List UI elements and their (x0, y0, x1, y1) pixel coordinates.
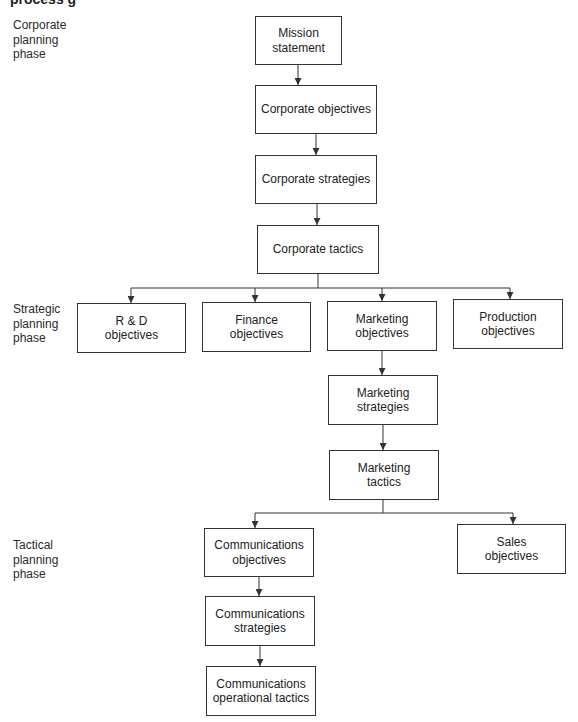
node-label: Communications strategies (212, 607, 308, 636)
node-rd-objectives: R & D objectives (77, 303, 186, 353)
node-label: Corporate strategies (262, 172, 371, 187)
node-label: Communications objectives (211, 538, 307, 567)
node-label: Corporate objectives (261, 102, 371, 117)
node-corporate-strategies: Corporate strategies (255, 155, 377, 204)
node-label: Finance objectives (225, 313, 288, 342)
node-sales-objectives: Sales objectives (457, 524, 566, 574)
node-communications-strategies: Communications strategies (205, 596, 315, 646)
node-label: Communications operational tactics (209, 677, 313, 706)
node-marketing-tactics: Marketing tactics (329, 450, 439, 500)
node-marketing-objectives: Marketing objectives (327, 301, 437, 351)
node-label: Marketing strategies (349, 386, 417, 415)
node-communications-objectives: Communications objectives (204, 528, 314, 577)
node-label: R & D objectives (94, 314, 169, 343)
node-label: Marketing objectives (348, 312, 416, 341)
node-mission-statement: Mission statement (255, 16, 342, 65)
node-communications-operational-tactics: Communications operational tactics (206, 666, 316, 716)
node-finance-objectives: Finance objectives (202, 302, 311, 352)
node-production-objectives: Production objectives (453, 299, 563, 349)
node-label: Mission statement (256, 26, 341, 55)
node-label: Sales objectives (480, 535, 543, 564)
node-marketing-strategies: Marketing strategies (328, 375, 438, 425)
node-corporate-objectives: Corporate objectives (255, 85, 377, 134)
node-label: Corporate tactics (273, 242, 364, 257)
node-corporate-tactics: Corporate tactics (257, 225, 379, 274)
node-label: Marketing tactics (354, 461, 414, 490)
node-label: Production objectives (474, 310, 542, 339)
